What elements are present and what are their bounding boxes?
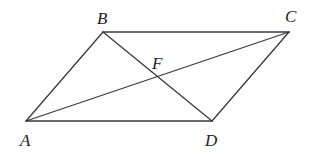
parallelogram-diagram: A B C D F: [0, 0, 313, 154]
label-a: A: [19, 131, 31, 150]
vertex-labels: A B C D F: [19, 7, 297, 150]
segments: [26, 32, 289, 121]
label-f: F: [151, 54, 163, 73]
label-d: D: [204, 131, 218, 150]
label-c: C: [285, 7, 297, 26]
segment-bd: [103, 32, 212, 121]
diagram-canvas: A B C D F: [0, 0, 313, 154]
label-b: B: [97, 9, 108, 28]
